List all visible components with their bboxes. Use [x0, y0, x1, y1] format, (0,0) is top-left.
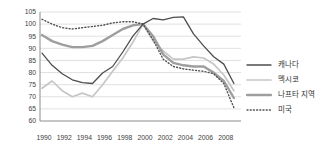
x-tick-label: 1992 [57, 134, 72, 141]
legend-label-usa: 미국 [278, 106, 292, 114]
line-chart-figure: 1051009590858075706560199019921994199619… [0, 0, 330, 164]
x-tick-label: 2002 [158, 134, 173, 141]
x-tick-label: 2008 [218, 134, 233, 141]
legend-line-swatch-nafta [246, 92, 272, 98]
legend-item-usa: 미국 [246, 102, 315, 117]
y-tick-label: 80 [28, 69, 36, 76]
y-tick-label: 85 [28, 57, 36, 64]
series-line-canada [42, 17, 234, 84]
x-tick-label: 2004 [178, 134, 193, 141]
legend-label-mexico: 멕시코 [278, 76, 299, 84]
chart-legend: 캐나다멕시코나프타 지역미국 [246, 57, 315, 117]
legend-item-nafta: 나프타 지역 [246, 87, 315, 102]
y-tick-label: 100 [25, 20, 37, 27]
legend-label-canada: 캐나다 [278, 61, 299, 69]
y-tick-label: 105 [25, 8, 37, 15]
y-tick-label: 70 [28, 93, 36, 100]
y-tick-label: 60 [28, 117, 36, 124]
legend-line-swatch-canada [246, 62, 272, 68]
legend-item-mexico: 멕시코 [246, 72, 315, 87]
y-tick-label: 75 [28, 81, 36, 88]
y-tick-label: 65 [28, 105, 36, 112]
x-tick-label: 1994 [77, 134, 92, 141]
series-line-nafta [42, 24, 234, 98]
legend-label-nafta: 나프타 지역 [278, 91, 315, 99]
legend-line-swatch-usa [246, 107, 272, 113]
y-tick-label: 95 [28, 33, 36, 40]
y-tick-label: 90 [28, 45, 36, 52]
x-tick-label: 1998 [117, 134, 132, 141]
legend-item-canada: 캐나다 [246, 57, 315, 72]
x-tick-label: 1990 [36, 134, 51, 141]
x-tick-label: 2000 [137, 134, 152, 141]
x-tick-label: 2006 [198, 134, 213, 141]
legend-line-swatch-mexico [246, 77, 272, 83]
x-tick-label: 1996 [97, 134, 112, 141]
